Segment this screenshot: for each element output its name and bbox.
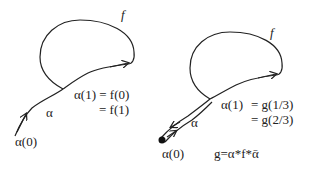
label-alpha-left: α bbox=[46, 105, 53, 120]
loop-f-left bbox=[40, 20, 134, 89]
label-alpha-right: α bbox=[191, 115, 198, 130]
loop-composition-diagram: f α α(0) α(1) = f(0) = f(1) f α α(0) α(1… bbox=[0, 0, 314, 169]
label-junction-right: α(1) bbox=[221, 97, 243, 112]
loop-arrow-left bbox=[110, 63, 128, 67]
label-alpha0-right: α(0) bbox=[162, 146, 184, 161]
path-alpha-left bbox=[15, 89, 63, 136]
label-composition: g=α*f*ᾱ bbox=[214, 146, 259, 161]
label-junction-right-eq2: = g(2/3) bbox=[251, 112, 293, 127]
label-f-right: f bbox=[270, 25, 276, 40]
arrow-alpha-back bbox=[171, 122, 180, 127]
loop-f-right bbox=[190, 32, 282, 99]
label-junction-right-eq1: = g(1/3) bbox=[251, 97, 293, 112]
label-junction-left-2: = f(1) bbox=[99, 102, 129, 117]
path-alpha-backward bbox=[165, 102, 212, 142]
label-alpha0-left: α(0) bbox=[15, 134, 37, 149]
label-junction-left-1: α(1) = f(0) bbox=[74, 87, 129, 102]
loop-arrow-right bbox=[258, 74, 276, 78]
left-figure bbox=[15, 20, 134, 136]
path-alpha-forward bbox=[161, 99, 210, 138]
start-point bbox=[159, 137, 166, 144]
label-f-left: f bbox=[121, 7, 127, 22]
arrow-alpha-left bbox=[17, 114, 26, 132]
